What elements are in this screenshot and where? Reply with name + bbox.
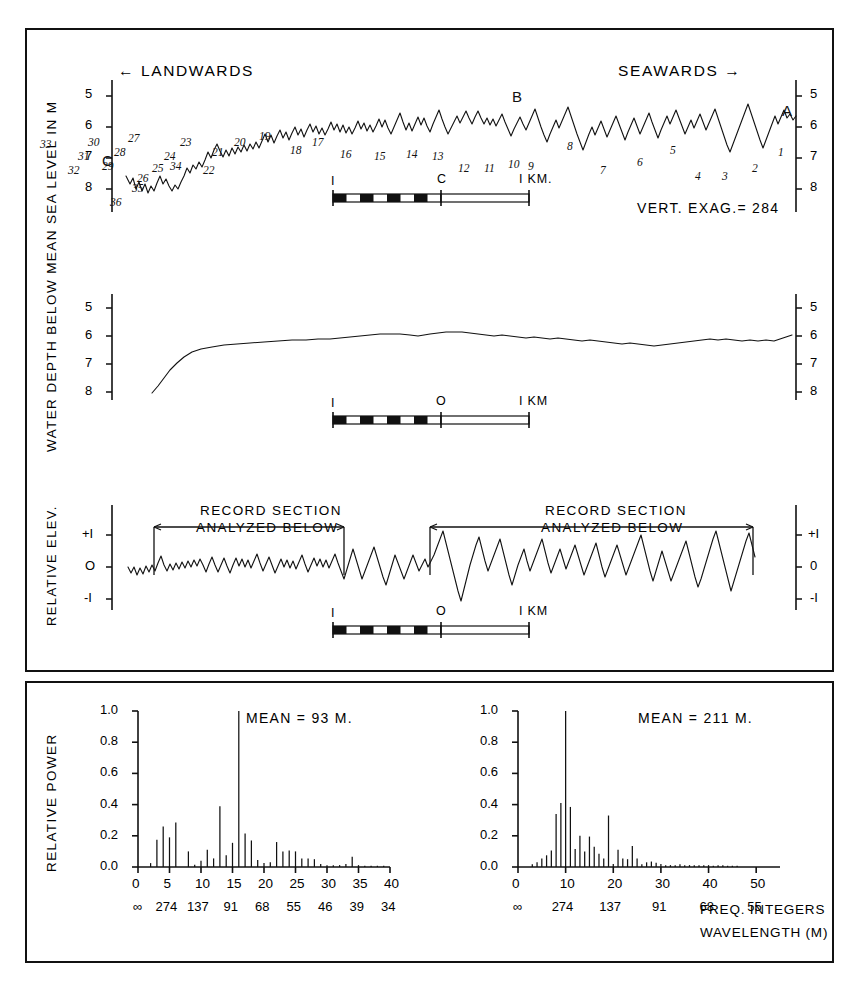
p2-right-tick-5: 5 — [810, 299, 817, 314]
spectrum-x-tick: 5 — [164, 876, 172, 891]
p2-left-tick-6: 6 — [85, 327, 92, 342]
p2-left-tick-5: 5 — [85, 299, 92, 314]
spectrum-wavelength-tick: 91 — [224, 899, 238, 914]
p3-right-tick-zero: 0 — [810, 558, 817, 573]
wavelength-caption: WAVELENGTH (M) — [700, 925, 828, 940]
spectrum-wavelength-tick: 55 — [287, 899, 301, 914]
p2-scale-right-label: I KM — [519, 394, 548, 408]
middle-profile-trace — [152, 332, 792, 393]
spectrum-wavelength-tick: 46 — [318, 899, 332, 914]
svg-text:14: 14 — [406, 148, 418, 160]
spectrum-y-tick: 0.2 — [480, 827, 498, 842]
spectrum-wavelength-tick: 68 — [255, 899, 269, 914]
p2-left-tick-7: 7 — [85, 355, 92, 370]
svg-text:2: 2 — [752, 162, 758, 174]
p1-right-tick-5: 5 — [810, 86, 817, 101]
spectrum-x-tick: 15 — [227, 876, 242, 891]
svg-text:12: 12 — [458, 162, 470, 174]
p2-scale-center-label: O — [436, 394, 447, 408]
spectrum-y-tick: 0.2 — [100, 827, 118, 842]
top-peak-number-layer-left: 34 35 36 — [100, 140, 300, 210]
spectrum-wavelength-tick: 274 — [552, 899, 574, 914]
svg-text:9: 9 — [528, 160, 534, 172]
spectrum-y-tick: 0.6 — [480, 764, 498, 779]
relative-power-axis-label: RELATIVE POWER — [44, 712, 59, 872]
spectrum-x-tick: 10 — [195, 876, 210, 891]
svg-text:3: 3 — [721, 170, 728, 182]
spectrum-y-tick: 0.8 — [480, 733, 498, 748]
spectrum-x-tick: 25 — [290, 876, 305, 891]
spectrum-x-tick: 40 — [384, 876, 399, 891]
svg-text:7: 7 — [600, 164, 607, 176]
record-section-bracket-left — [154, 524, 344, 575]
spectrum-y-tick: 0.4 — [100, 796, 118, 811]
spectrum-y-tick: 0.0 — [480, 858, 498, 873]
svg-text:31: 31 — [77, 150, 90, 162]
spectrum-y-tick: 1.0 — [480, 702, 498, 717]
spectrum-x-tick: 20 — [607, 876, 622, 891]
svg-text:10: 10 — [508, 158, 520, 170]
spectrum-bars — [151, 711, 384, 867]
spectrum-x-tick: 20 — [258, 876, 273, 891]
svg-text:30: 30 — [87, 136, 100, 148]
p3-scale-center-label: O — [436, 604, 447, 618]
svg-text:8: 8 — [567, 140, 573, 152]
spectrum-wavelength-tick: 137 — [187, 899, 209, 914]
spectrum-y-tick: 0.4 — [480, 796, 498, 811]
relative-elevation-trace — [128, 531, 755, 601]
spectrum-wavelength-tick: ∞ — [133, 899, 142, 914]
spectrum-x-tick: 30 — [321, 876, 336, 891]
svg-text:13: 13 — [432, 150, 444, 162]
p3-left-tick-plus1: +I — [82, 526, 93, 541]
spectrum-wavelength-tick: 274 — [156, 899, 178, 914]
spectrum-x-tick: 30 — [655, 876, 670, 891]
top-endpoint-a-label: A — [782, 102, 792, 119]
p1-scale-left-label: I — [331, 174, 335, 188]
svg-text:1: 1 — [778, 146, 784, 158]
svg-text:15: 15 — [374, 150, 386, 162]
svg-text:6: 6 — [637, 156, 643, 168]
spectrum-x-tick: 50 — [750, 876, 765, 891]
svg-text:32: 32 — [67, 164, 80, 176]
svg-text:5: 5 — [670, 144, 676, 156]
svg-text:34: 34 — [169, 160, 182, 172]
svg-text:33: 33 — [39, 138, 52, 150]
svg-text:35: 35 — [131, 182, 144, 194]
spectrum-wavelength-tick: 137 — [599, 899, 621, 914]
spectrum-wavelength-tick: 34 — [381, 899, 395, 914]
svg-text:11: 11 — [484, 162, 495, 174]
svg-text:4: 4 — [695, 170, 701, 182]
p3-left-tick-minus1: -I — [84, 590, 92, 605]
p2-right-tick-8: 8 — [810, 383, 817, 398]
spectrum-bars — [532, 711, 737, 867]
p3-scale-right-label: I KM — [519, 604, 548, 618]
spectrum-y-tick: 1.0 — [100, 702, 118, 717]
p2-scale-left-label: I — [331, 396, 335, 410]
p2-right-tick-6: 6 — [810, 327, 817, 342]
spectrum-wavelength-tick: ∞ — [513, 899, 522, 914]
spectrum-x-tick: 10 — [560, 876, 575, 891]
spectrum-y-tick: 0.6 — [100, 764, 118, 779]
p1-scale-bar — [328, 190, 568, 212]
spectrum-x-tick: 35 — [353, 876, 368, 891]
p3-scale-left-label: I — [331, 606, 335, 620]
p3-left-tick-zero: O — [85, 558, 95, 573]
p2-left-tick-8: 8 — [85, 383, 92, 398]
svg-text:17: 17 — [312, 136, 325, 148]
p3-right-tick-minus1: -I — [810, 590, 818, 605]
spectrum-x-tick: 0 — [512, 876, 520, 891]
freq-integers-caption: FREQ. INTEGERS — [700, 902, 825, 917]
spectrum-x-tick: 0 — [132, 876, 140, 891]
top-midpoint-b-label: B — [512, 88, 522, 105]
spectrum-x-tick: 40 — [703, 876, 718, 891]
figure-root: WATER DEPTH BELOW MEAN SEA LEVEL IN M ← … — [0, 0, 860, 987]
spectrum-y-tick: 0.0 — [100, 858, 118, 873]
p1-scale-center-label: C — [437, 172, 447, 186]
p2-scale-bar — [328, 412, 568, 434]
p3-right-tick-plus1: +I — [808, 526, 819, 541]
p1-scale-right-label: I KM. — [519, 172, 552, 186]
svg-text:36: 36 — [109, 196, 122, 208]
p2-right-tick-7: 7 — [810, 355, 817, 370]
svg-text:16: 16 — [340, 148, 352, 160]
p1-left-tick-5: 5 — [85, 86, 92, 101]
